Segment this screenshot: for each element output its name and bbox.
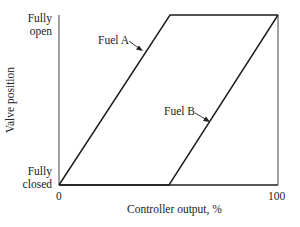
fuel-a-annotation: Fuel A <box>98 34 129 47</box>
y-tick-bottom-line1: Fully <box>4 165 52 178</box>
fuel-b-arrow-icon <box>195 113 210 122</box>
y-tick-bottom-line2: closed <box>4 178 52 191</box>
x-tick-min: 0 <box>56 190 62 203</box>
y-tick-top-line1: Fully <box>4 12 52 25</box>
fuel-a-line <box>59 15 278 185</box>
y-axis-label: Valve position <box>4 67 16 133</box>
fuel-a-arrow-icon <box>129 41 143 51</box>
x-axis-label: Controller output, % <box>127 203 222 216</box>
y-tick-top-line2: open <box>4 25 52 38</box>
fuel-b-annotation: Fuel B <box>164 105 195 118</box>
fuel-b-line <box>59 15 278 185</box>
x-tick-max: 100 <box>268 190 285 203</box>
